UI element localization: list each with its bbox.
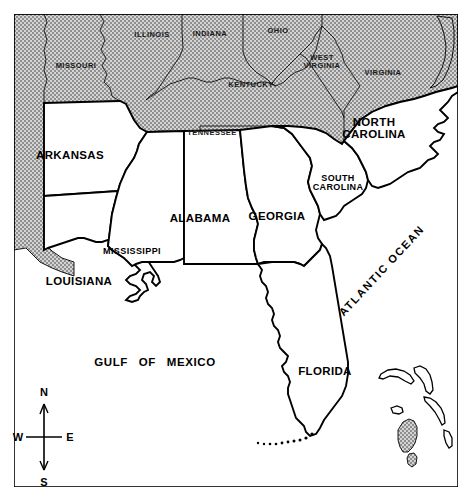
state-label-line: CAROLINA <box>342 128 406 140</box>
state-label-line: NORTH <box>342 116 406 128</box>
state-label-line: MISSISSIPPI <box>103 247 161 256</box>
state-label-line: ALABAMA <box>170 212 231 224</box>
state-label-line: FLORIDA <box>298 365 352 377</box>
state-label-north-carolina: NORTHCAROLINA <box>342 116 406 140</box>
state-label-line: CAROLINA <box>313 183 364 192</box>
state-label-line: TENNESSEE <box>187 129 236 137</box>
water-label-gulf-of-mexico: GULF OF MEXICO <box>94 356 215 368</box>
state-label-line: INDIANA <box>193 30 227 38</box>
state-label-arkansas: ARKANSAS <box>36 149 104 161</box>
state-label-line: VIRGINIA <box>365 69 402 77</box>
state-label-line: VIRGINIA <box>304 62 341 70</box>
state-label-alabama: ALABAMA <box>170 212 231 224</box>
state-label-west-virginia: WESTVIRGINIA <box>304 54 341 70</box>
state-label-florida: FLORIDA <box>298 365 352 377</box>
shaded-island-small <box>407 453 417 467</box>
state-label-tennessee: TENNESSEE <box>187 129 236 137</box>
state-label-missouri: MISSOURI <box>56 62 97 70</box>
state-label-georgia: GEORGIA <box>249 210 306 222</box>
map-figure: MISSOURIILLINOISINDIANAOHIOKENTUCKYWESTV… <box>0 0 472 501</box>
state-label-line: OHIO <box>268 27 289 35</box>
state-label-virginia: VIRGINIA <box>365 69 402 77</box>
state-label-indiana: INDIANA <box>193 30 227 38</box>
state-label-line: GEORGIA <box>249 210 306 222</box>
compass-label-south: S <box>40 476 47 488</box>
state-label-kentucky: KENTUCKY <box>228 81 273 89</box>
compass-label-east: E <box>66 431 73 443</box>
state-label-illinois: ILLINOIS <box>134 31 169 39</box>
state-label-line: LOUISIANA <box>46 275 112 287</box>
state-label-line: KENTUCKY <box>228 81 273 89</box>
compass-label-north: N <box>40 386 48 398</box>
compass-label-west: W <box>13 431 23 443</box>
state-label-line: ARKANSAS <box>36 149 104 161</box>
state-label-mississippi: MISSISSIPPI <box>103 247 161 256</box>
state-label-south-carolina: SOUTHCAROLINA <box>313 174 364 193</box>
state-label-line: ILLINOIS <box>134 31 169 39</box>
state-label-ohio: OHIO <box>268 27 289 35</box>
state-label-louisiana: LOUISIANA <box>46 275 112 287</box>
state-label-line: MISSOURI <box>56 62 97 70</box>
